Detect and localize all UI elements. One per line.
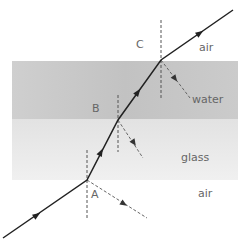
label-glass: glass: [181, 151, 210, 164]
label-point-c: C: [136, 38, 144, 51]
arrow-reflection-a-icon: [119, 199, 128, 208]
refraction-diagram: C air water B glass A air: [0, 0, 244, 245]
label-water: water: [192, 93, 224, 106]
label-air-top: air: [199, 41, 214, 54]
label-air-bottom: air: [198, 187, 213, 200]
label-point-b: B: [92, 102, 100, 115]
glass-layer: [12, 119, 238, 180]
label-point-a: A: [91, 188, 99, 201]
